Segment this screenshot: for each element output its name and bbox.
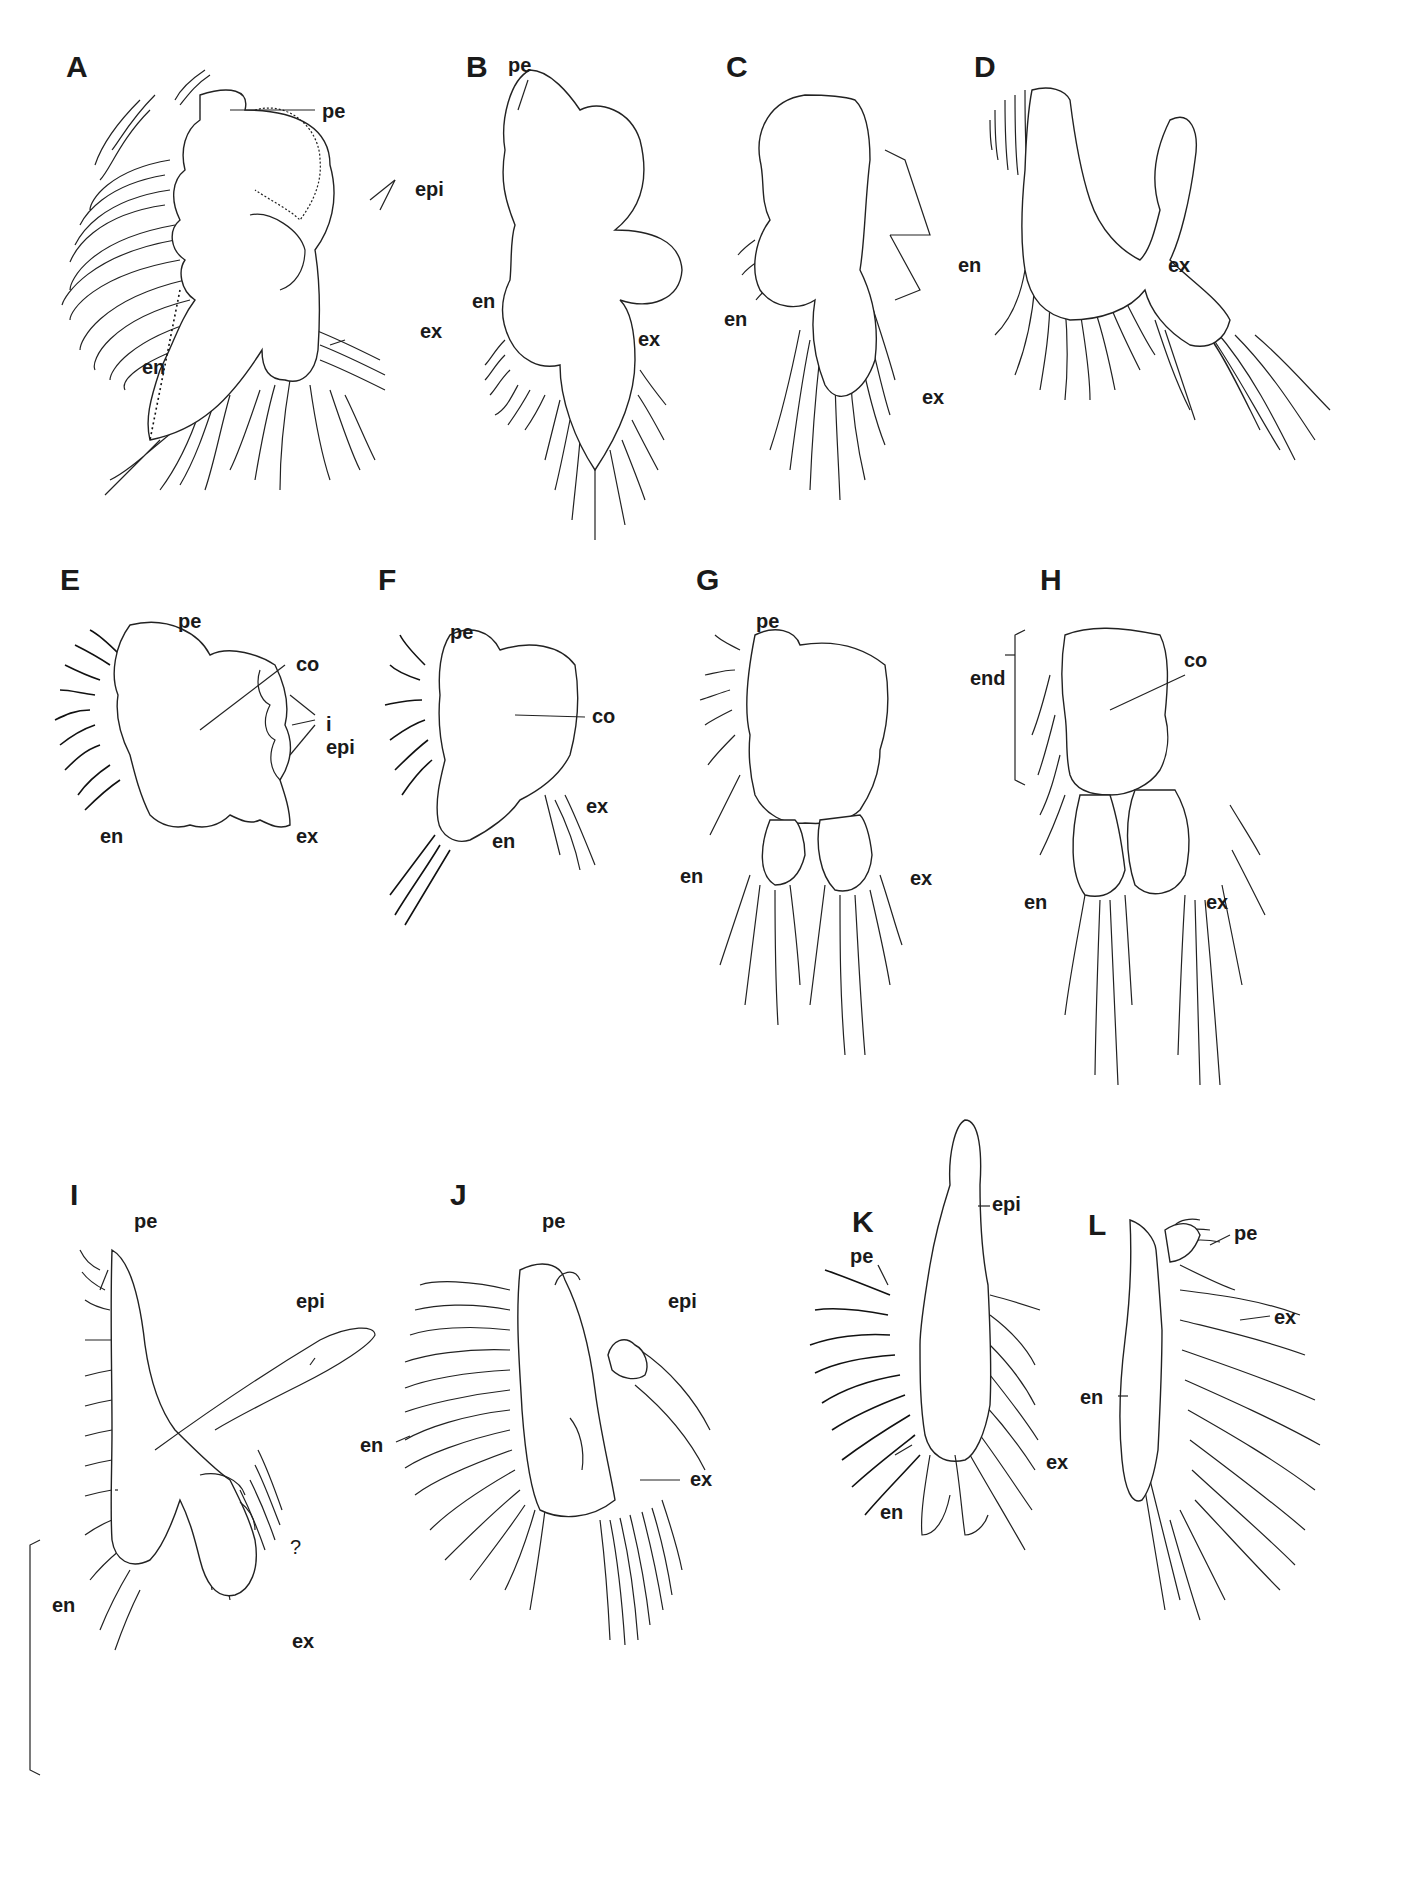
label-en: en bbox=[360, 1434, 383, 1457]
label-ex: ex bbox=[1206, 891, 1228, 914]
label-pe: pe bbox=[322, 100, 345, 123]
panel-l: L pe ex en bbox=[1070, 1150, 1404, 1881]
limb-drawing-k bbox=[770, 1115, 1070, 1881]
label-ex: ex bbox=[586, 795, 608, 818]
label-co: co bbox=[592, 705, 615, 728]
limb-drawing-g bbox=[680, 555, 1000, 1155]
panel-g: G pe en ex bbox=[680, 555, 1000, 1155]
label-co: co bbox=[296, 653, 319, 676]
panel-b: B pe en ex bbox=[450, 0, 710, 560]
label-pe: pe bbox=[756, 610, 779, 633]
label-en: en bbox=[52, 1594, 75, 1617]
label-en: en bbox=[1080, 1386, 1103, 1409]
label-en: en bbox=[958, 254, 981, 277]
label-ex: ex bbox=[1046, 1451, 1068, 1474]
label-pe: pe bbox=[542, 1210, 565, 1233]
limb-drawing-j bbox=[350, 1150, 750, 1881]
limb-drawing-f bbox=[360, 555, 700, 975]
label-epi: epi bbox=[415, 178, 444, 201]
label-pe: pe bbox=[1234, 1222, 1257, 1245]
label-pe: pe bbox=[850, 1245, 873, 1268]
limb-drawing-d bbox=[950, 0, 1404, 560]
limb-drawing-h bbox=[960, 555, 1404, 1175]
limb-drawing-c bbox=[700, 0, 960, 560]
label-en: en bbox=[472, 290, 495, 313]
label-end: end bbox=[970, 667, 1006, 690]
label-ex: ex bbox=[638, 328, 660, 351]
label-ex: ex bbox=[296, 825, 318, 848]
panel-e: E pe co i epi en ex bbox=[0, 555, 360, 955]
label-epi: epi bbox=[296, 1290, 325, 1313]
label-ex: ex bbox=[292, 1630, 314, 1653]
label-epi: epi bbox=[668, 1290, 697, 1313]
label-en: en bbox=[1024, 891, 1047, 914]
label-i-epi: i epi bbox=[326, 713, 360, 759]
panel-f: F pe co ex en bbox=[360, 555, 700, 975]
label-pe: pe bbox=[134, 1210, 157, 1233]
label-en: en bbox=[680, 865, 703, 888]
panel-c: C en ex bbox=[700, 0, 960, 560]
label-ex: ex bbox=[922, 386, 944, 409]
label-pe: pe bbox=[450, 621, 473, 644]
label-question: ? bbox=[290, 1536, 301, 1559]
label-en: en bbox=[142, 356, 165, 379]
panel-h: H end co en ex bbox=[960, 555, 1404, 1175]
label-co: co bbox=[1184, 649, 1207, 672]
limb-drawing-l bbox=[1070, 1150, 1404, 1881]
label-ex: ex bbox=[420, 320, 442, 343]
panel-d: D en ex bbox=[950, 0, 1404, 560]
limb-drawing-a bbox=[0, 0, 380, 560]
label-en: en bbox=[492, 830, 515, 853]
label-epi: epi bbox=[992, 1193, 1021, 1216]
label-pe: pe bbox=[178, 610, 201, 633]
panel-j: J pe epi en ex bbox=[350, 1150, 750, 1881]
label-en: en bbox=[100, 825, 123, 848]
label-pe: pe bbox=[508, 54, 531, 77]
panel-k: K pe epi ex en bbox=[770, 1115, 1070, 1881]
label-en: en bbox=[880, 1501, 903, 1524]
limb-drawing-b bbox=[450, 0, 710, 560]
label-en: en bbox=[724, 308, 747, 331]
panel-a: A pe epi en ex bbox=[0, 0, 380, 560]
label-ex: ex bbox=[1274, 1306, 1296, 1329]
label-ex: ex bbox=[1168, 254, 1190, 277]
label-ex: ex bbox=[910, 867, 932, 890]
label-ex: ex bbox=[690, 1468, 712, 1491]
